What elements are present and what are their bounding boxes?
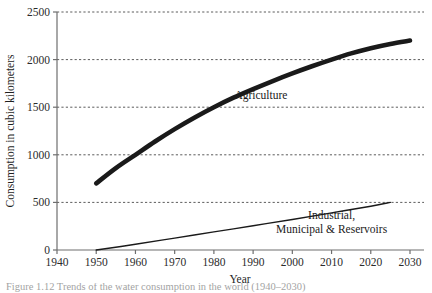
figure-water-consumption: 05001000150020002500 1940195019601970198… bbox=[0, 0, 432, 293]
series-label-industrial-line1: Industrial, bbox=[308, 209, 355, 222]
y-axis-title: Consumption in cubic kilometers bbox=[4, 54, 17, 208]
consumption-line-chart: 05001000150020002500 1940195019601970198… bbox=[0, 0, 432, 293]
y-tick-label: 0 bbox=[44, 244, 50, 256]
figure-caption-text: Figure 1.12 Trends of the water consumpt… bbox=[6, 283, 306, 292]
x-tick-label-group: 1940195019601970198019902000201020202030 bbox=[46, 256, 422, 268]
y-tick-label: 2500 bbox=[27, 6, 50, 18]
x-tick-label: 2020 bbox=[359, 256, 382, 268]
series-label-agriculture: Agriculture bbox=[234, 89, 287, 102]
series-line-agriculture bbox=[96, 41, 410, 184]
y-tick-label-group: 05001000150020002500 bbox=[27, 6, 50, 256]
y-tick-label: 1500 bbox=[27, 101, 50, 113]
x-tick-label: 1970 bbox=[163, 256, 186, 268]
x-tick-label: 2000 bbox=[281, 256, 304, 268]
x-tick-label: 1960 bbox=[124, 256, 147, 268]
series-label-industrial-line2: Municipal & Reservoirs bbox=[276, 223, 388, 236]
figure-caption: Figure 1.12 Trends of the water consumpt… bbox=[0, 283, 432, 293]
x-tick-label: 2030 bbox=[399, 256, 422, 268]
x-tick-label: 2010 bbox=[320, 256, 343, 268]
x-tick-label: 1990 bbox=[242, 256, 265, 268]
x-tick-label: 1950 bbox=[85, 256, 108, 268]
x-tick-label: 1940 bbox=[46, 256, 69, 268]
x-tick-group bbox=[57, 250, 410, 254]
y-tick-label: 1000 bbox=[27, 149, 50, 161]
x-tick-label: 1980 bbox=[202, 256, 225, 268]
y-tick-label: 500 bbox=[33, 196, 51, 208]
y-tick-label: 2000 bbox=[27, 54, 50, 66]
